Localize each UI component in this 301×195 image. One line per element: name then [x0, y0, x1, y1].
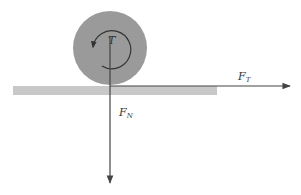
- ground-surface: [13, 86, 217, 95]
- force-label-ft: FT: [237, 70, 252, 84]
- force-diagram: T FT FN: [0, 0, 301, 195]
- force-label-fn: FN: [118, 106, 134, 120]
